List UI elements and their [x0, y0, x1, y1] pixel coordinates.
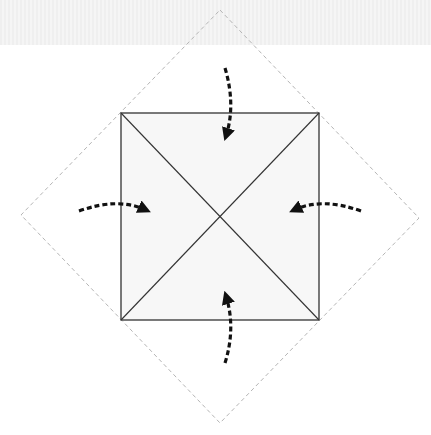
fold-diagram [0, 0, 431, 435]
